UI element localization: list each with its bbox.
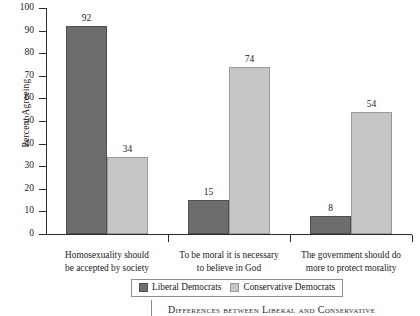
legend-label-conservative: Conservative Democrats <box>243 283 335 292</box>
figure-caption: Differences between Liberal and Conserva… <box>168 303 420 316</box>
y-tick-mark <box>39 166 46 167</box>
plot-area: 0102030405060708090100 92341574854 Homos… <box>46 8 412 235</box>
y-tick-label: 100 <box>4 3 34 13</box>
caption-divider <box>151 300 152 316</box>
legend-label-liberal: Liberal Democrats <box>152 283 221 292</box>
y-tick-label: 10 <box>4 206 34 216</box>
bar-liberal-group-2 <box>188 200 229 234</box>
x-tick-mark <box>290 235 291 242</box>
bar-conservative-group-1 <box>107 157 148 234</box>
x-tick-mark <box>412 235 413 242</box>
bar-conservative-group-2 <box>229 67 270 234</box>
category-label-line1: To be moral it is necessary <box>160 249 298 262</box>
bar-value-label: 34 <box>107 145 148 155</box>
y-tick-label: 20 <box>4 184 34 194</box>
category-label-1: Homosexuality shouldbe accepted by socie… <box>38 249 176 274</box>
y-tick-label: 80 <box>4 48 34 58</box>
x-tick-mark <box>168 235 169 242</box>
category-label-line2: more to protect morality <box>282 262 420 275</box>
y-tick-mark <box>39 211 46 212</box>
bar-conservative-group-3 <box>351 112 392 234</box>
y-tick-mark <box>39 8 46 9</box>
y-tick-mark <box>39 234 46 235</box>
y-tick-label: 50 <box>4 116 34 126</box>
bar-value-label: 92 <box>66 14 107 24</box>
bar-value-label: 15 <box>188 188 229 198</box>
y-tick-label: 30 <box>4 161 34 171</box>
bar-value-label: 54 <box>351 100 392 110</box>
y-tick-mark <box>39 76 46 77</box>
category-label-line2: be accepted by society <box>38 262 176 275</box>
category-label-line1: Homosexuality should <box>38 249 176 262</box>
category-label-line2: to believe in God <box>160 262 298 275</box>
y-tick-mark <box>39 53 46 54</box>
category-label-line1: The government should do <box>282 249 420 262</box>
category-label-2: To be moral it is necessaryto believe in… <box>160 249 298 274</box>
bar-chart-figure: Percent Agreeing 0102030405060708090100 … <box>0 0 420 316</box>
y-tick-mark <box>39 31 46 32</box>
legend-swatch-icon-liberal <box>139 283 148 292</box>
legend-item-conservative-democrats: Conservative Democrats <box>230 283 335 292</box>
chart-legend: Liberal Democrats Conservative Democrats <box>131 279 343 297</box>
bar-liberal-group-1 <box>66 26 107 234</box>
y-tick-label: 70 <box>4 71 34 81</box>
y-tick-label: 40 <box>4 139 34 149</box>
bar-liberal-group-3 <box>310 216 351 234</box>
y-axis-line <box>46 8 47 235</box>
y-tick-label: 60 <box>4 93 34 103</box>
y-tick-mark <box>39 98 46 99</box>
x-axis-line <box>46 234 412 235</box>
y-tick-label: 90 <box>4 26 34 36</box>
y-tick-mark <box>39 121 46 122</box>
legend-item-liberal-democrats: Liberal Democrats <box>139 283 221 292</box>
bar-value-label: 74 <box>229 55 270 65</box>
category-label-3: The government should domore to protect … <box>282 249 420 274</box>
y-tick-label: 0 <box>4 229 34 239</box>
y-tick-mark <box>39 189 46 190</box>
y-tick-mark <box>39 144 46 145</box>
bar-value-label: 8 <box>310 204 351 214</box>
legend-swatch-icon-conservative <box>230 283 239 292</box>
